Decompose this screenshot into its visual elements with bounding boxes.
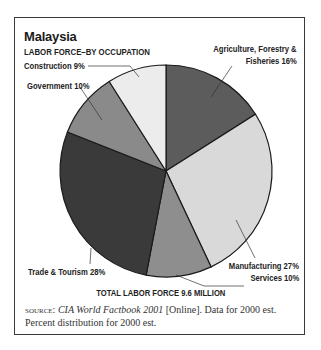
total-label-text: TOTAL LABOR FORCE 9.6 MILLION bbox=[96, 288, 225, 298]
label-construction: Construction 9% bbox=[24, 61, 85, 72]
source-prefix: source: bbox=[25, 304, 55, 315]
total-labor-force: TOTAL LABOR FORCE 9.6 MILLION bbox=[0, 288, 321, 298]
source-line2: Percent distribution for 2000 est. bbox=[25, 317, 156, 328]
source-note: source: CIA World Factbook 2001 [Online]… bbox=[25, 303, 300, 329]
source-title: CIA World Factbook 2001 bbox=[58, 304, 163, 315]
source-rest: [Online]. Data for 2000 est. bbox=[163, 304, 276, 315]
label-agriculture-line1: Agriculture, Forestry & bbox=[214, 44, 297, 55]
label-government: Government 10% bbox=[27, 81, 90, 92]
pie-slices bbox=[60, 65, 272, 277]
label-services: Services 10% bbox=[250, 273, 299, 284]
label-manufacturing: Manufacturing 27% bbox=[229, 261, 299, 272]
label-trade-tourism: Trade & Tourism 28% bbox=[28, 267, 105, 278]
label-agriculture-line2: Fisheries 16% bbox=[246, 56, 297, 67]
